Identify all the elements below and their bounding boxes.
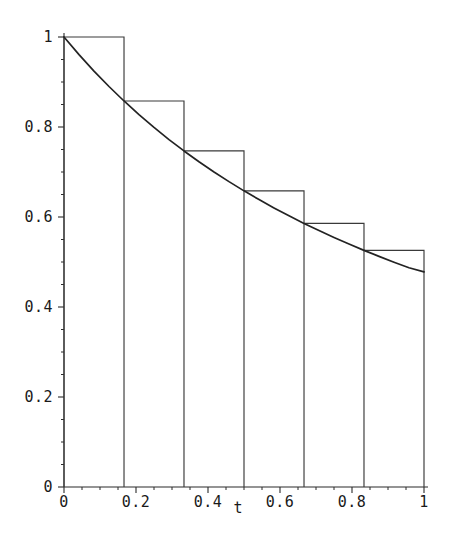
x-tick-label: 0.2: [122, 493, 151, 511]
chart-page: 00.20.40.60.81 00.20.40.60.81 t: [0, 0, 450, 539]
y-tick-label: 0.6: [24, 208, 53, 226]
x-tick-label: 0.6: [266, 493, 295, 511]
step-function-outline: [64, 37, 424, 487]
x-tick-label: 0: [59, 493, 69, 511]
y-axis-tick-labels: 00.20.40.60.81: [24, 28, 53, 496]
x-axis-title: t: [233, 499, 242, 517]
x-axis-tick-labels: 00.20.40.60.81: [59, 493, 429, 511]
y-tick-label: 0: [43, 478, 53, 496]
x-tick-label: 0.4: [194, 493, 223, 511]
plot-canvas: 00.20.40.60.81 00.20.40.60.81 t: [0, 0, 450, 539]
x-tick-label: 1: [419, 493, 429, 511]
y-tick-label: 0.2: [24, 388, 53, 406]
y-tick-label: 0.4: [24, 298, 53, 316]
y-tick-label: 0.8: [24, 118, 53, 136]
x-tick-label: 0.8: [338, 493, 367, 511]
y-tick-label: 1: [43, 28, 53, 46]
